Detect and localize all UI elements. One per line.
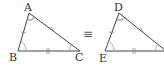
congruence-diagram: A B C ≡ D E (0, 0, 164, 68)
congruence-symbol: ≡ (83, 27, 93, 41)
triangle-def (105, 13, 164, 54)
vertex-label-c: C (75, 51, 83, 64)
vertex-label-d: D (114, 1, 123, 14)
vertex-label-b: B (9, 51, 17, 64)
vertex-label-a: A (23, 1, 33, 14)
triangle-abc (18, 13, 80, 54)
vertex-label-e: E (99, 52, 107, 65)
